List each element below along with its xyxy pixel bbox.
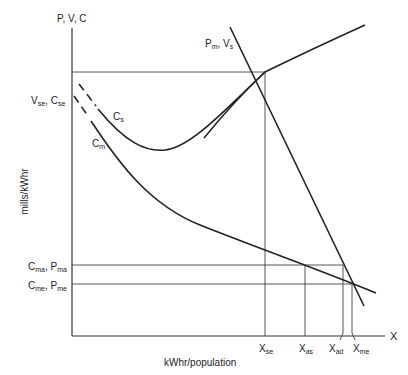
curve-cm (91, 121, 376, 293)
y-axis-title: P, V, C (57, 14, 86, 24)
tick-sub2: me (57, 285, 67, 292)
pm-sub: m (212, 43, 218, 50)
y-tick-cme-pme: Cme, Pme (28, 281, 67, 291)
tick-main: X (299, 343, 306, 354)
tick-sub: ad (336, 348, 344, 355)
cm-sub: m (99, 143, 105, 150)
curve-pm (230, 27, 364, 306)
tick-sub: ma (35, 266, 45, 273)
tick-sub: me (35, 285, 45, 292)
tick-main: X (259, 343, 266, 354)
x-tick-xad: Xad (329, 344, 343, 354)
tick-sub: se (38, 100, 45, 107)
tick-main: X (329, 343, 336, 354)
y-tick-cma-pma: Cma, Pma (28, 262, 67, 272)
tick-main2: C (51, 95, 58, 106)
curve-cs-dashed (79, 84, 96, 106)
x-axis-end-label: X (390, 331, 397, 341)
tick-sub2: se (58, 100, 65, 107)
cs-sub: s (120, 116, 124, 123)
y-axis-label: mills/kWhr (19, 162, 30, 222)
pm-main: P (205, 38, 212, 49)
tick-sub: me (360, 348, 370, 355)
tick-sub2: ma (57, 266, 67, 273)
economics-diagram (0, 0, 408, 375)
tick-main: V (31, 95, 38, 106)
vs-sub: s (230, 43, 234, 50)
tick-sub: se (266, 348, 273, 355)
x-axis-label: kWhr/population (164, 358, 236, 368)
tick-main: X (353, 343, 360, 354)
tick-sub: as (306, 348, 313, 355)
y-tick-vse-cse: Vse, Cse (31, 96, 65, 106)
x-tick-xas: Xas (299, 344, 313, 354)
series-label-pm-vs: Pm, Vs (205, 39, 233, 49)
x-tick-xme: Xme (353, 344, 369, 354)
curve-cm-dashed (74, 96, 88, 116)
x-tick-xse: Xse (259, 344, 273, 354)
series-label-cs: Cs (113, 112, 124, 122)
vs-main: V (223, 38, 230, 49)
series-label-cm: Cm (92, 139, 105, 149)
